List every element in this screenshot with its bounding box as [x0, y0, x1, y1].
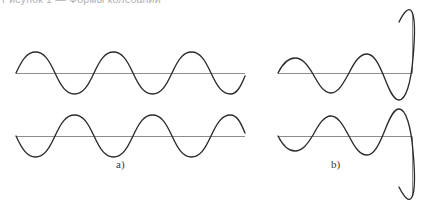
waveform-plot	[0, 0, 438, 210]
waveform-b-lower	[278, 109, 414, 199]
panel-label-a: a)	[116, 158, 125, 170]
panel-b	[278, 10, 414, 200]
waveform-b-upper	[278, 10, 414, 100]
panel-a	[16, 52, 245, 157]
panel-label-b: b)	[331, 158, 340, 170]
figure-root: Рисунок 1 — Формы колебаний a) b)	[0, 0, 438, 210]
